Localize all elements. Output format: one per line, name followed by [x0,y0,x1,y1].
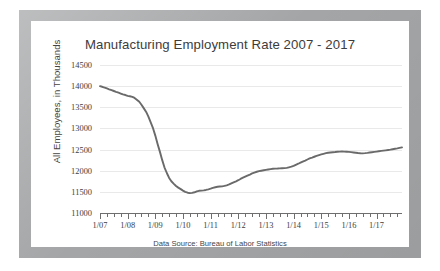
x-tick-minor [141,214,142,217]
x-tick-minor [273,214,274,217]
x-tick-label: 1/09 [148,221,163,230]
x-tick-label: 1/14 [286,221,301,230]
x-tick-label: 1/17 [369,221,384,230]
x-tick-minor [114,214,115,217]
x-tick-major [183,214,184,219]
x-tick-minor [176,214,177,217]
series-line-chart [100,65,402,213]
y-tick-label: 14000 [71,82,92,91]
x-tick-label: 1/08 [120,221,135,230]
x-tick-minor [121,214,122,217]
x-tick-minor [342,214,343,217]
y-tick-label: 12000 [71,166,92,175]
x-tick-label: 1/13 [258,221,273,230]
x-tick-minor [252,214,253,217]
x-tick-minor [107,214,108,217]
x-tick-label: 1/12 [231,221,246,230]
series-line-all-employees [100,86,402,193]
x-tick-minor [370,214,371,217]
x-tick-minor [245,214,246,217]
y-tick-label: 12500 [71,145,92,154]
x-tick-minor [204,214,205,217]
x-tick-major [349,214,350,219]
x-tick-major [238,214,239,219]
y-axis-tick-labels: 1100011500120001250013000135001400014500 [31,65,96,213]
plot-area [100,65,402,213]
y-tick-label: 13000 [71,124,92,133]
x-tick-major [266,214,267,219]
x-tick-minor [224,214,225,217]
x-tick-minor [307,214,308,217]
x-tick-major [211,214,212,219]
y-tick-label: 13500 [71,103,92,112]
x-tick-minor [169,214,170,217]
x-tick-minor [335,214,336,217]
x-axis-tick-labels: 1/071/081/091/101/111/121/131/141/151/16… [100,221,402,235]
x-tick-major [294,214,295,219]
figure-frame: Manufacturing Employment Rate 2007 - 201… [19,10,421,258]
x-tick-minor [356,214,357,217]
x-tick-major [377,214,378,219]
x-tick-label: 1/16 [341,221,356,230]
y-tick-label: 11500 [71,187,92,196]
x-tick-label: 1/15 [314,221,329,230]
x-tick-minor [197,214,198,217]
x-tick-major [128,214,129,219]
x-tick-label: 1/07 [93,221,108,230]
x-tick-minor [218,214,219,217]
x-tick-minor [383,214,384,217]
x-axis [100,213,402,221]
x-tick-major [155,214,156,219]
x-tick-minor [390,214,391,217]
chart-card: Manufacturing Employment Rate 2007 - 201… [31,21,409,247]
x-tick-minor [301,214,302,217]
x-tick-minor [162,214,163,217]
x-tick-minor [135,214,136,217]
y-tick-label: 14500 [71,61,92,70]
x-tick-label: 1/10 [176,221,191,230]
x-tick-label: 1/11 [203,221,218,230]
x-tick-minor [280,214,281,217]
x-tick-minor [328,214,329,217]
x-tick-minor [397,214,398,217]
x-tick-minor [190,214,191,217]
x-tick-major [321,214,322,219]
x-tick-minor [259,214,260,217]
chart-title: Manufacturing Employment Rate 2007 - 201… [31,37,409,52]
x-tick-minor [314,214,315,217]
x-tick-minor [363,214,364,217]
x-tick-major [100,214,101,219]
y-tick-label: 11000 [71,209,92,218]
x-tick-minor [231,214,232,217]
source-caption: Data Source: Bureau of Labor Statistics [31,239,409,247]
x-tick-minor [287,214,288,217]
x-tick-minor [148,214,149,217]
